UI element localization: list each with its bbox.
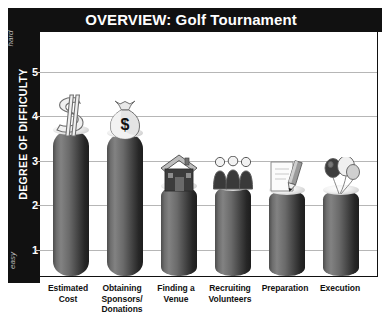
y-axis-band: DEGREE OF DIFFICULTY hard easy 5 4 3 2 1 <box>8 8 40 283</box>
x-label-line: Execution <box>308 283 372 294</box>
bar-cylinder <box>323 190 359 276</box>
bar-obtaining-sponsors: $ <box>107 133 143 276</box>
chart-container: OVERVIEW: Golf Tournament DEGREE OF DIFF… <box>0 0 390 321</box>
bar-cylinder <box>161 186 197 276</box>
plot-area: $ <box>40 32 378 277</box>
y-axis-easy-label: easy <box>8 252 17 269</box>
bar-execution <box>323 190 359 276</box>
bar-cylinder <box>269 190 305 276</box>
y-axis-title: DEGREE OF DIFFICULTY <box>17 64 29 204</box>
bar-cylinder <box>215 186 251 276</box>
page-title: OVERVIEW: Golf Tournament <box>8 8 374 32</box>
bar-estimated-cost <box>53 130 89 276</box>
x-label-line: Volunteers <box>198 294 262 305</box>
bar-finding-venue <box>161 186 197 276</box>
y-axis-hard-label: hard <box>6 30 15 46</box>
gridline-3 <box>40 161 377 162</box>
chart-title-band: OVERVIEW: Golf Tournament <box>8 8 382 32</box>
bar-preparation <box>269 190 305 276</box>
bar-cylinder <box>107 133 143 276</box>
x-label-line: Donations <box>90 304 154 315</box>
gridline-5 <box>40 72 377 73</box>
gridline-4 <box>40 116 377 117</box>
bar-recruiting-volunteers <box>215 186 251 276</box>
bar-cylinder <box>53 130 89 276</box>
x-label-execution: Execution <box>308 283 372 294</box>
